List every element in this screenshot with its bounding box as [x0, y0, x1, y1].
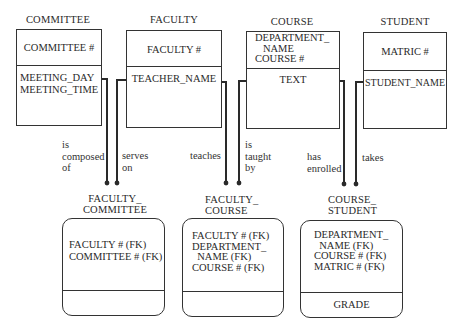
relationship-label-is-composed-of: is composed of — [62, 139, 105, 174]
association-faculty-committee[interactable]: FACULTY # (FK) COMMITTEE # (FK) — [62, 218, 165, 316]
many-dot-icon — [354, 182, 359, 187]
entity-title-faculty: FACULTY — [122, 14, 226, 25]
entity-key-section: FACULTY # — [127, 31, 221, 67]
many-dot-icon — [105, 181, 110, 186]
association-title-faculty-committee: FACULTY_ COMMITTEE — [70, 193, 160, 215]
association-title-course-student: COURSE_ STUDENT — [328, 194, 398, 216]
relationship-label-is-taught-by: is taught by — [245, 139, 271, 174]
entity-course[interactable]: DEPARTMENT_ NAME COURSE # TEXT — [246, 31, 340, 129]
entity-committee[interactable]: COMMITTEE # MEETING_DAY MEETING_TIME — [16, 29, 102, 126]
association-attributes-section — [63, 291, 164, 297]
entity-student[interactable]: MATRIC # STUDENT_NAME — [363, 32, 447, 129]
entity-key-section: DEPARTMENT_ NAME COURSE # — [247, 32, 339, 68]
entity-attributes-section: STUDENT_NAME — [364, 71, 446, 89]
association-course-student[interactable]: DEPARTMENT_ NAME (FK) COURSE # (FK) MATR… — [300, 220, 403, 318]
entity-title-committee: COMMITTEE — [6, 14, 110, 25]
relationship-label-has-enrolled: has enrolled — [307, 151, 341, 174]
entity-key-section: MATRIC # — [364, 33, 446, 70]
connector-takes — [356, 82, 363, 183]
entity-attributes-section: TEACHER_NAME — [127, 67, 221, 85]
many-dot-icon — [237, 181, 242, 186]
association-attributes-section: GRADE — [301, 293, 402, 311]
many-dot-icon — [224, 181, 229, 186]
association-title-faculty-course: FACULTY_ COURSE — [205, 194, 275, 216]
entity-title-course: COURSE — [242, 16, 342, 27]
association-faculty-course[interactable]: FACULTY # (FK) DEPARTMENT_ NAME (FK) COU… — [182, 218, 284, 317]
relationship-label-serves-on: serves on — [122, 150, 148, 173]
relationship-label-teaches: teaches — [190, 150, 221, 162]
entity-faculty[interactable]: FACULTY # TEACHER_NAME — [126, 30, 222, 128]
entity-key-section: COMMITTEE # — [17, 30, 101, 66]
entity-attributes-section: TEXT — [247, 69, 339, 86]
entity-title-student: STUDENT — [358, 16, 452, 27]
relationship-label-takes: takes — [362, 152, 384, 164]
association-key-section: FACULTY # (FK) COMMITTEE # (FK) — [63, 219, 164, 290]
many-dot-icon — [342, 182, 347, 187]
association-key-section: FACULTY # (FK) DEPARTMENT_ NAME (FK) COU… — [183, 219, 283, 291]
association-key-section: DEPARTMENT_ NAME (FK) COURSE # (FK) MATR… — [301, 221, 402, 292]
entity-attributes-section: MEETING_DAY MEETING_TIME — [17, 66, 101, 95]
association-attributes-section — [183, 292, 283, 298]
many-dot-icon — [115, 181, 120, 186]
